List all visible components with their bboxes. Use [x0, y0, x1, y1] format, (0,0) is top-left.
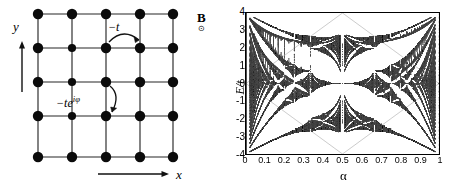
lattice-annotation-arrows — [109, 34, 139, 112]
lattice-site — [135, 43, 145, 53]
lattice-diagram-panel: y x −t −teiφ B ⊙ — [0, 0, 229, 189]
lattice-site — [33, 111, 43, 121]
lattice-site — [168, 43, 178, 53]
hopping-arrow-phase-head — [111, 107, 117, 112]
lattice-site — [67, 152, 77, 162]
lattice-site — [101, 43, 111, 53]
x-tick-label: 0.6 — [352, 156, 372, 165]
y-tick-label: 4 — [229, 7, 245, 17]
lattice-site — [135, 77, 145, 87]
hopping-phase-base: −te — [56, 96, 73, 110]
plot-frame — [245, 12, 440, 155]
axis-label-x: x — [176, 168, 182, 181]
magnetic-field-label: B ⊙ — [197, 11, 206, 33]
x-tick-label: 1 — [430, 156, 450, 165]
axis-label-energy: E/t — [233, 58, 248, 118]
lattice-site — [168, 152, 178, 162]
y-tick-label: 3 — [229, 25, 245, 35]
lattice-site — [68, 44, 76, 52]
y-tick-label: 2 — [229, 43, 245, 53]
lattice-site — [68, 112, 76, 120]
hopping-phase-label: −teiφ — [56, 95, 80, 109]
x-tick-label: 0.3 — [294, 156, 314, 165]
lattice-site — [101, 9, 111, 19]
butterfly-spectrum-canvas — [246, 13, 439, 154]
lattice-site — [33, 152, 43, 162]
lattice-site — [33, 77, 43, 87]
x-axis-arrowhead-icon — [162, 171, 170, 177]
lattice-site — [168, 77, 178, 87]
lattice-site — [135, 111, 145, 121]
lattice-site — [135, 9, 145, 19]
lattice-site — [33, 43, 43, 53]
figure-root: y x −t −teiφ B ⊙ 43210-1-2-3-4 00.10.20.… — [0, 0, 458, 189]
y-axis-arrowhead-icon — [19, 41, 25, 49]
lattice-site — [135, 152, 145, 162]
lattice-site — [101, 111, 111, 121]
lattice-site — [33, 9, 43, 19]
axis-label-alpha: α — [229, 168, 458, 184]
lattice-site — [101, 77, 111, 87]
hopping-amplitude-label: −t — [108, 21, 119, 33]
x-tick-label: 0.8 — [391, 156, 411, 165]
x-tick-label: 0.2 — [274, 156, 294, 165]
x-tick-label: 0 — [235, 156, 255, 165]
lattice-site — [168, 9, 178, 19]
lattice-site — [168, 111, 178, 121]
x-tick-label: 0.4 — [313, 156, 333, 165]
hofstadter-butterfly-panel: 43210-1-2-3-4 00.10.20.30.40.50.60.70.80… — [229, 0, 458, 189]
lattice-site — [101, 152, 111, 162]
out-of-page-field-icon: ⊙ — [198, 25, 206, 33]
y-tick-label: -3 — [229, 132, 245, 142]
axis-label-y: y — [13, 20, 19, 33]
hopping-phase-exponent: iφ — [73, 94, 80, 104]
x-tick-label: 0.7 — [372, 156, 392, 165]
x-tick-label: 0.1 — [255, 156, 275, 165]
x-tick-label: 0.5 — [333, 156, 353, 165]
magnetic-field-text: B — [197, 10, 206, 25]
lattice-site — [68, 78, 76, 86]
lattice-site — [67, 9, 77, 19]
x-tick-label: 0.9 — [411, 156, 431, 165]
